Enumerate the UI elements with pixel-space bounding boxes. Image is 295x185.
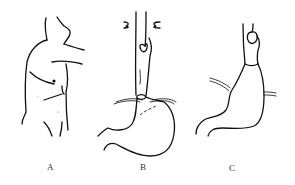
- panel-label-a: A: [47, 163, 54, 172]
- anatomical-figure: [0, 0, 295, 185]
- panel-a-torso-drawing: [22, 17, 84, 136]
- panel-b-stomach-lesion-drawing: [98, 12, 176, 156]
- panel-c-stomach-drawing: [196, 24, 276, 136]
- panel-label-b: B: [140, 163, 146, 172]
- panel-label-c: C: [229, 164, 235, 173]
